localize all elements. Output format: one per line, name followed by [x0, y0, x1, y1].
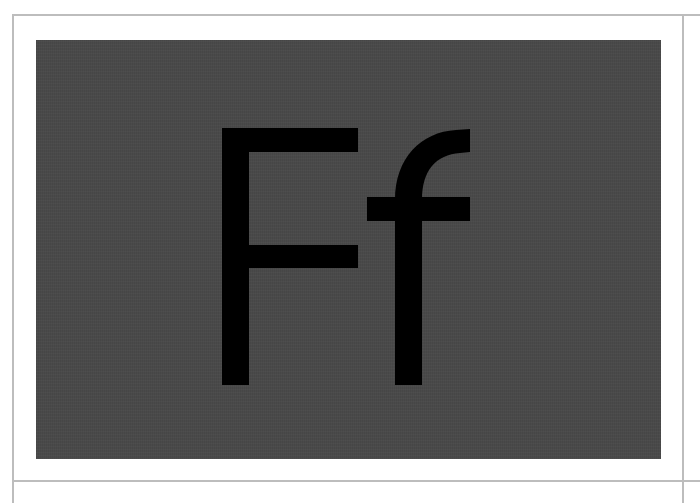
frame-border-bottom	[12, 480, 700, 482]
frame-border-top	[12, 14, 700, 16]
frame-border-left	[12, 14, 14, 503]
letter-ff-glyph	[36, 40, 661, 459]
frame-border-right	[682, 14, 684, 503]
lowercase-f-glyph	[367, 129, 470, 385]
glyph-card: Ff	[36, 40, 661, 459]
capital-f-glyph	[222, 128, 358, 385]
